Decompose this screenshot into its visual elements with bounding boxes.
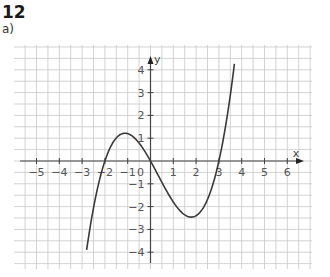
x-tick-label: −5 [28, 166, 44, 179]
x-tick-label: 5 [261, 166, 268, 179]
y-tick-label: 3 [138, 87, 145, 100]
x-tick-label: 4 [238, 166, 245, 179]
y-axis-label: y [154, 53, 161, 66]
x-axis-label: x [293, 147, 300, 160]
x-tick-label: 6 [284, 166, 291, 179]
x-tick-label: −2 [97, 166, 113, 179]
x-tick-label: 1 [170, 166, 177, 179]
y-tick-label: −2 [128, 201, 144, 214]
x-tick-label: −4 [51, 166, 67, 179]
y-tick-label: 2 [138, 109, 145, 122]
x-tick-label: 2 [193, 166, 200, 179]
y-tick-label: −4 [128, 246, 144, 259]
y-tick-label: −3 [128, 223, 144, 236]
y-tick-label: −1 [128, 178, 144, 191]
y-tick-label: 4 [138, 64, 145, 77]
x-tick-label: −3 [74, 166, 90, 179]
y-axis-arrow-icon [148, 56, 154, 64]
function-graph: xy−5−4−3−2−1123456−4−3−2−112340 [0, 0, 330, 277]
function-curve [87, 64, 235, 250]
origin-label: 0 [137, 166, 144, 179]
grid-lines [14, 45, 312, 269]
tick-labels: xy−5−4−3−2−1123456−4−3−2−112340 [28, 53, 299, 259]
